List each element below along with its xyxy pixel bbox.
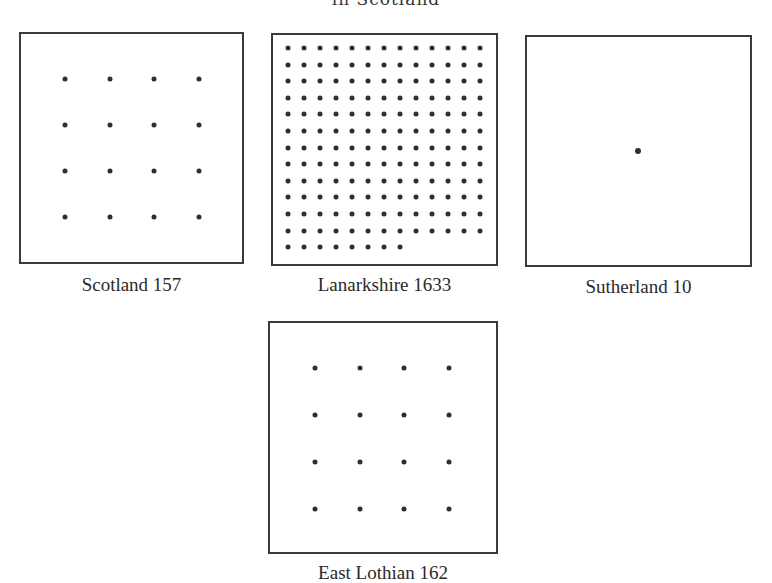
dot-marker [286,46,291,51]
dot-marker [430,178,435,183]
dot-marker [107,123,112,128]
dot-marker [286,245,291,250]
dot-marker [478,112,483,117]
dot-marker [447,507,452,512]
dot-marker [350,245,355,250]
dot-marker [430,79,435,84]
dot-marker [414,228,419,233]
dot-marker [430,145,435,150]
dot-marker [446,145,451,150]
dot-marker [447,460,452,465]
dot-marker [357,507,362,512]
dot-marker [478,79,483,84]
dot-marker [447,413,452,418]
dot-marker [318,112,323,117]
dot-marker [366,95,371,100]
dot-marker [350,162,355,167]
dot-marker [357,460,362,465]
dot-marker [350,145,355,150]
dot-marker [286,62,291,67]
dot-marker [382,162,387,167]
dot-marker [398,46,403,51]
dot-marker [366,79,371,84]
dot-marker [302,145,307,150]
dot-marker [318,145,323,150]
dot-marker [462,195,467,200]
dot-marker [446,212,451,217]
dot-marker [478,228,483,233]
dot-marker [398,112,403,117]
dot-marker [398,195,403,200]
dot-marker [350,178,355,183]
dot-marker [334,195,339,200]
dot-marker [107,215,112,220]
dot-marker [366,228,371,233]
dot-marker [446,62,451,67]
dot-marker [350,228,355,233]
dot-marker [462,228,467,233]
dot-marker [318,129,323,134]
dot-marker [382,129,387,134]
dot-marker [63,77,68,82]
dot-marker [107,169,112,174]
dot-marker [350,95,355,100]
dot-marker [357,413,362,418]
dot-marker [350,79,355,84]
dot-marker [366,112,371,117]
dot-marker [63,169,68,174]
dot-marker [382,195,387,200]
dot-marker [382,112,387,117]
dot-marker [382,79,387,84]
dot-marker [398,129,403,134]
dot-marker [350,62,355,67]
dot-marker [318,46,323,51]
dot-marker [414,79,419,84]
dot-marker [446,95,451,100]
dot-marker [366,245,371,250]
dot-marker [334,112,339,117]
dot-marker [414,178,419,183]
dot-marker [414,62,419,67]
dot-marker [318,95,323,100]
dot-marker [635,148,641,154]
dot-marker [398,62,403,67]
dot-marker [430,162,435,167]
dot-marker [414,46,419,51]
dot-marker [302,62,307,67]
dot-marker [478,129,483,134]
dot-marker [478,212,483,217]
dot-marker [382,245,387,250]
dot-marker [398,162,403,167]
dot-marker [382,46,387,51]
dot-marker [430,95,435,100]
dot-marker [398,245,403,250]
dot-marker [334,129,339,134]
dot-marker [318,162,323,167]
panel-sutherland-label: Sutherland 10 [525,276,752,298]
dot-marker [382,178,387,183]
dot-marker [286,79,291,84]
dot-marker [430,212,435,217]
dot-marker [318,228,323,233]
dot-marker [382,228,387,233]
dot-marker [286,228,291,233]
dot-marker [398,178,403,183]
dot-marker [313,366,318,371]
dot-marker [414,95,419,100]
dot-marker [318,195,323,200]
dot-marker [478,145,483,150]
dot-marker [302,46,307,51]
dot-marker [63,123,68,128]
dot-marker [286,129,291,134]
dot-marker [286,112,291,117]
dot-marker [286,212,291,217]
dot-marker [196,77,201,82]
dot-marker [366,46,371,51]
dot-marker [414,212,419,217]
dot-marker [398,228,403,233]
dot-marker [430,228,435,233]
dot-marker [334,62,339,67]
dot-marker [478,46,483,51]
dot-marker [462,46,467,51]
dot-marker [402,413,407,418]
